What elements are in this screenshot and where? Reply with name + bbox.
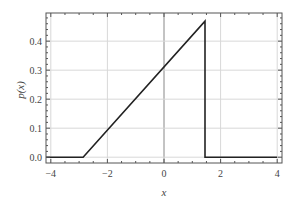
x-tick-labels: −4−2024	[45, 168, 279, 179]
y-tick-label: 0.1	[30, 123, 43, 134]
chart: −4−2024 0.00.10.20.30.4 x p(x)	[0, 0, 297, 209]
x-axis-label: x	[161, 186, 167, 198]
y-tick-label: 0.3	[30, 65, 43, 76]
x-tick-label: −4	[45, 168, 56, 179]
x-tick-label: 4	[275, 168, 280, 179]
x-tick-label: 0	[162, 168, 167, 179]
y-tick-label: 0.0	[30, 152, 43, 163]
x-tick-label: 2	[218, 168, 223, 179]
y-axis-label: p(x)	[14, 81, 27, 100]
x-tick-label: −2	[102, 168, 113, 179]
grid-lines	[46, 13, 282, 163]
y-tick-labels: 0.00.10.20.30.4	[30, 36, 43, 163]
y-tick-label: 0.4	[30, 36, 43, 47]
y-tick-label: 0.2	[30, 94, 43, 105]
